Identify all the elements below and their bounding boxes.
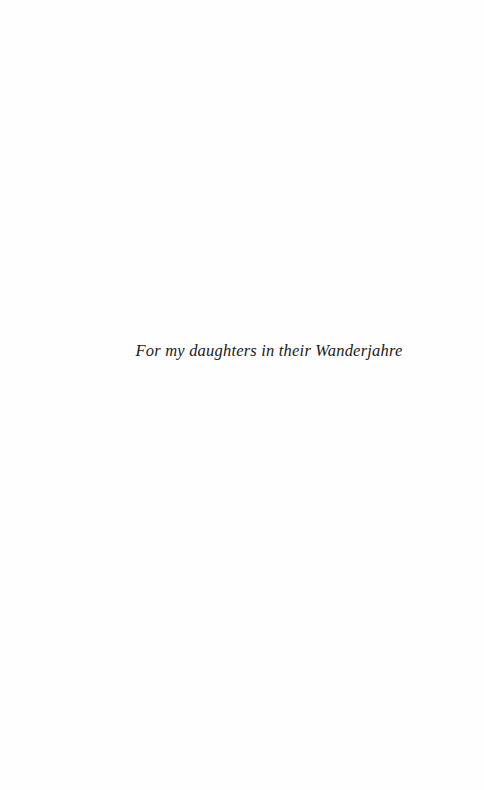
dedication-page: For my daughters in their Wanderjahre xyxy=(0,0,484,790)
dedication-text: For my daughters in their Wanderjahre xyxy=(0,340,484,362)
